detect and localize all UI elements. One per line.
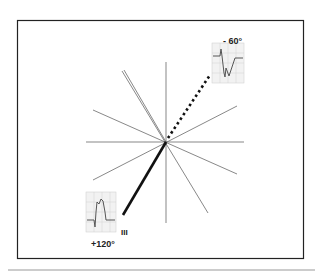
label-lead-iii: III [121,228,128,237]
lead-iii-positive-axis [123,142,166,215]
ecg-inset-top [212,43,244,83]
hexaxial-diagram: - 60° III +120° [0,0,322,274]
ecg-inset-bottom [86,192,116,232]
lead-iii-negative-axis [168,75,210,138]
label-minus-60: - 60° [223,36,243,46]
label-plus-120: +120° [91,239,115,249]
frame [18,21,304,259]
